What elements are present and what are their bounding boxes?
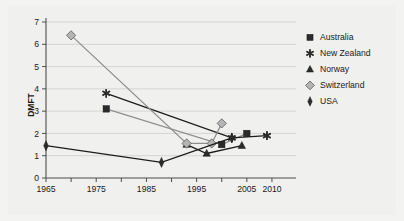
x-tick-label-1985: 1985 [137,184,156,194]
y-tick-label-7: 7 [34,17,39,27]
x-tick-label-1965: 1965 [36,184,55,194]
x-tick-label-1975: 1975 [87,184,106,194]
y-axis-title: DMFT [26,92,36,116]
y-tick-label-1: 1 [34,151,39,161]
chart-figure: 01234567 196519751985199520052010 Austra… [0,0,404,221]
y-tick-label-6: 6 [34,39,39,49]
legend-0-marker-square [307,34,313,40]
x-tick-label-1995: 1995 [187,184,206,194]
legend-label-australia: Australia [320,32,354,42]
legend-label-usa: USA [320,96,338,106]
series-0-point-2-marker-square [244,130,250,136]
chart-canvas: 01234567 196519751985199520052010 Austra… [0,0,404,221]
legend-label-switzerland: Switzerland [320,80,365,90]
y-tick-label-4: 4 [34,84,39,94]
x-tick-label-2010: 2010 [262,184,281,194]
series-0-point-0-marker-square [103,106,109,112]
legend-label-norway: Norway [320,64,350,74]
y-tick-label-0: 0 [34,173,39,183]
legend-label-new-zealand: New Zealand [320,48,371,58]
x-tick-label-2005: 2005 [237,184,256,194]
y-tick-label-2: 2 [34,129,39,139]
y-tick-label-5: 5 [34,62,39,72]
